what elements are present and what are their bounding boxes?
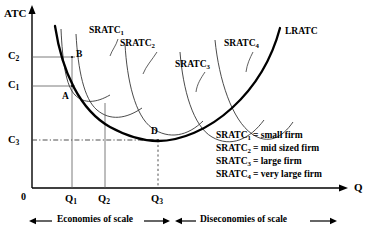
cost-tick-c3: C3 <box>8 135 19 146</box>
cost-tick-c1-base: C <box>8 79 16 90</box>
diseconomies-right-arrowhead <box>330 218 337 224</box>
cost-tick-c1-sub: 1 <box>16 83 20 92</box>
x-axis-title: Q <box>354 182 363 193</box>
point-d-marker <box>157 139 159 141</box>
quantity-tick-q2-sub: 2 <box>106 197 110 206</box>
curve-label-sratc2-base: SRATC <box>120 38 152 48</box>
curve-label-sratc4: SRATC4 <box>224 39 259 49</box>
quantity-tick-q3-base: Q <box>151 193 159 204</box>
y-axis-arrowhead <box>28 5 35 14</box>
diseconomies-left-arrowhead <box>175 218 182 224</box>
legend-item-sratc4-base: SRATC <box>216 169 248 179</box>
cost-tick-c1: C1 <box>8 80 19 91</box>
point-b-marker <box>71 56 73 58</box>
point-label-a: A <box>62 92 69 102</box>
diseconomies-of-scale-label: Diseconomies of scale <box>200 215 287 225</box>
origin-label: 0 <box>21 192 26 202</box>
legend-item-sratc4: SRATC4= very large firm <box>216 170 322 180</box>
cost-tick-c3-sub: 3 <box>16 138 20 147</box>
y-axis-title: ATC <box>4 8 26 19</box>
quantity-tick-q2: Q2 <box>98 194 110 205</box>
quantity-tick-q1: Q1 <box>65 194 77 205</box>
curve-label-sratc2-sub: 2 <box>152 42 155 49</box>
legend-item-sratc2-desc: = mid sized firm <box>251 143 319 153</box>
legend-item-sratc4-desc: = very large firm <box>251 169 322 179</box>
curve-label-sratc4-sub: 4 <box>256 42 259 49</box>
curve-label-sratc3: SRATC3 <box>175 60 210 70</box>
sratc4-leader <box>246 52 253 72</box>
cost-tick-c2-base: C <box>8 50 16 61</box>
point-label-b: B <box>76 50 82 60</box>
sratc2-leader <box>143 52 157 74</box>
legend-item-sratc1: SRATC1= small firm <box>216 131 303 141</box>
quantity-tick-q1-sub: 1 <box>73 197 77 206</box>
lratc-sratc-diagram: ATC Q 0 C2 C1 C3 Q1 Q2 Q3 A B D SRATC1 S… <box>0 0 368 237</box>
legend-item-sratc3-desc: = large firm <box>251 156 302 166</box>
x-axis-arrowhead <box>339 184 348 191</box>
curve-label-sratc3-base: SRATC <box>175 59 207 69</box>
curve-label-sratc1-base: SRATC <box>89 25 121 35</box>
sratc1-leader <box>110 39 118 56</box>
economies-right-arrowhead <box>163 218 170 224</box>
point-a-marker <box>71 85 73 87</box>
cost-tick-c3-base: C <box>8 134 16 145</box>
legend-item-sratc1-base: SRATC <box>216 130 248 140</box>
curve-label-sratc3-sub: 3 <box>207 63 210 70</box>
quantity-tick-q3: Q3 <box>151 194 163 205</box>
curve-label-sratc4-base: SRATC <box>224 38 256 48</box>
sratc3-curve <box>125 44 203 135</box>
economies-left-arrowhead <box>29 218 36 224</box>
sratc3-leader <box>196 72 205 92</box>
curve-label-sratc1: SRATC1 <box>89 26 124 36</box>
quantity-tick-q3-sub: 3 <box>159 197 163 206</box>
curve-label-sratc1-sub: 1 <box>121 29 124 36</box>
economies-of-scale-label: Economies of scale <box>57 215 133 225</box>
legend-item-sratc3: SRATC3= large firm <box>216 157 302 167</box>
cost-tick-c2: C2 <box>8 51 19 62</box>
point-label-d: D <box>151 127 158 137</box>
legend-item-sratc3-base: SRATC <box>216 156 248 166</box>
sratc5-curve <box>215 40 293 139</box>
cost-tick-c2-sub: 2 <box>16 54 20 63</box>
legend-item-sratc2-base: SRATC <box>216 143 248 153</box>
legend-item-sratc2: SRATC2= mid sized firm <box>216 144 319 154</box>
curve-label-lratc: LRATC <box>285 27 318 37</box>
quantity-tick-q1-base: Q <box>65 193 73 204</box>
guide-lines-group <box>32 57 158 188</box>
curve-label-sratc2: SRATC2 <box>120 39 155 49</box>
legend-item-sratc1-desc: = small firm <box>251 130 303 140</box>
quantity-tick-q2-base: Q <box>98 193 106 204</box>
